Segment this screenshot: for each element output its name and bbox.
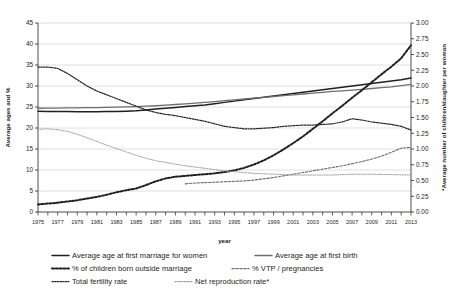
legend-label: % VTP / pregnancies <box>252 264 323 273</box>
x-tick-label: 1983 <box>110 219 122 225</box>
y-tick-label-right: 2.50 <box>416 51 429 58</box>
y-axis-left-label: Average ages and % <box>4 87 11 147</box>
legend-label: % of children born outside marriage <box>72 264 192 273</box>
x-tick-label: 1985 <box>130 219 142 225</box>
x-tick-label: 1979 <box>71 219 83 225</box>
x-tick-label: 2013 <box>405 219 417 225</box>
x-tick-label: 2003 <box>307 219 319 225</box>
x-tick-label: 1977 <box>52 219 64 225</box>
line-chart: 051015202530354045 0.000.250.500.751.001… <box>0 0 455 299</box>
x-tick-label: 1999 <box>267 219 279 225</box>
legend-label: Average age at first marriage for women <box>72 251 207 260</box>
y-tick-label-right: 2.25 <box>416 67 429 74</box>
y-axis-right-label: *Average number of children/daughter per… <box>440 44 447 191</box>
legend-label: Net reproduction rate* <box>195 277 269 286</box>
y-tick-label-left: 10 <box>26 166 34 173</box>
chart-background <box>0 0 455 299</box>
x-tick-label: 1995 <box>228 219 240 225</box>
legend-item: % of children born outside marriage <box>52 264 192 273</box>
y-tick-label-right: 0.50 <box>416 177 429 184</box>
y-tick-label-left: 25 <box>26 103 34 110</box>
y-tick-label-left: 15 <box>26 145 34 152</box>
y-tick-label-right: 3.00 <box>416 19 429 26</box>
x-tick-label: 1993 <box>209 219 221 225</box>
x-tick-label: 2011 <box>385 219 397 225</box>
x-tick-label: 2009 <box>366 219 378 225</box>
y-tick-label-left: 30 <box>26 82 34 89</box>
y-tick-label-right: 1.50 <box>416 114 429 121</box>
y-tick-label-left: 35 <box>26 61 34 68</box>
chart-container: 051015202530354045 0.000.250.500.751.001… <box>0 0 455 299</box>
legend-item: Average age at first marriage for women <box>52 251 207 260</box>
y-tick-label-left: 45 <box>26 19 34 26</box>
y-tick-label-right: 1.00 <box>416 145 429 152</box>
y-tick-label-right: 1.25 <box>416 130 429 137</box>
x-tick-label: 1991 <box>189 219 201 225</box>
x-tick-label: 1997 <box>248 219 260 225</box>
x-tick-label: 1989 <box>169 219 181 225</box>
y-tick-label-left: 5 <box>29 187 33 194</box>
y-tick-label-right: 0.75 <box>416 161 429 168</box>
y-tick-label-left: 0 <box>29 208 33 215</box>
y-tick-label-right: 0.00 <box>416 208 429 215</box>
x-tick-label: 2001 <box>287 219 299 225</box>
x-axis-label: year <box>218 237 231 244</box>
legend-label: Average age at first birth <box>275 251 358 260</box>
y-tick-label-left: 40 <box>26 40 34 47</box>
y-tick-label-right: 2.75 <box>416 35 429 42</box>
y-tick-label-right: 1.75 <box>416 98 429 105</box>
x-tick-label: 2005 <box>326 219 338 225</box>
y-tick-label-right: 2.00 <box>416 82 429 89</box>
x-tick-label: 2007 <box>346 219 358 225</box>
y-tick-label-left: 20 <box>26 124 34 131</box>
y-tick-label-right: 0.25 <box>416 193 429 200</box>
x-tick-label: 1981 <box>91 219 103 225</box>
legend-label: Total fertility rate <box>72 277 127 286</box>
x-tick-label: 1975 <box>32 219 44 225</box>
x-tick-label: 1987 <box>150 219 162 225</box>
